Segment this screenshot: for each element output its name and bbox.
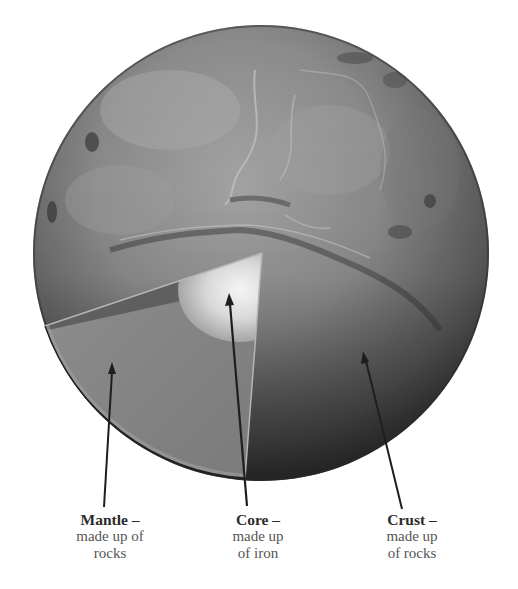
crust-desc-line1: made up xyxy=(367,528,457,545)
core-title: Core – xyxy=(208,511,308,528)
mantle-label: Mantle – made up of rocks xyxy=(55,511,165,562)
mantle-desc-line1: made up of xyxy=(55,528,165,545)
crust-label: Crust – made up of rocks xyxy=(367,511,457,562)
mantle-desc-line2: rocks xyxy=(55,545,165,562)
core-label: Core – made up of iron xyxy=(208,511,308,562)
core-desc-line1: made up xyxy=(208,528,308,545)
crust-title: Crust – xyxy=(367,511,457,528)
core-desc-line2: of iron xyxy=(208,545,308,562)
mantle-title: Mantle – xyxy=(55,511,165,528)
crust-desc-line2: of rocks xyxy=(367,545,457,562)
mars-cutaway-diagram xyxy=(0,0,518,589)
